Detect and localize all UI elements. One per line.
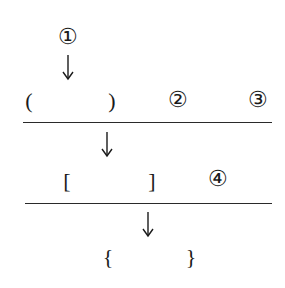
divider-line-2 (25, 203, 272, 204)
open-curly-brace: { (103, 246, 114, 268)
down-arrow-icon (142, 212, 154, 238)
label-circled-3: ③ (248, 89, 268, 111)
down-arrow-icon (62, 55, 74, 81)
divider-line-1 (23, 122, 272, 123)
close-curly-brace: } (186, 246, 197, 268)
label-circled-1: ① (58, 26, 78, 48)
down-arrow-icon (101, 132, 113, 158)
open-square-bracket: [ (63, 170, 70, 192)
close-square-bracket: ] (148, 170, 155, 192)
label-circled-4: ④ (208, 168, 228, 190)
close-parenthesis: ) (108, 90, 115, 112)
label-circled-2: ② (168, 89, 188, 111)
open-parenthesis: ( (25, 90, 32, 112)
